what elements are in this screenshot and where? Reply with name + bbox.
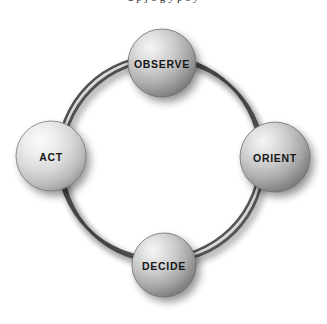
- ooda-loop-diagram: a p j o g y p s y: [0, 0, 327, 324]
- node-observe-label: OBSERVE: [134, 58, 190, 70]
- node-orient[interactable]: ORIENT: [240, 122, 310, 192]
- node-observe[interactable]: OBSERVE: [128, 29, 196, 97]
- node-decide[interactable]: DECIDE: [132, 233, 196, 297]
- node-decide-label: DECIDE: [142, 260, 186, 272]
- diagram-canvas: OBSERVE ORIENT DECIDE ACT: [0, 0, 327, 324]
- node-act-label: ACT: [39, 151, 63, 163]
- node-orient-label: ORIENT: [253, 152, 297, 164]
- node-act[interactable]: ACT: [16, 121, 86, 191]
